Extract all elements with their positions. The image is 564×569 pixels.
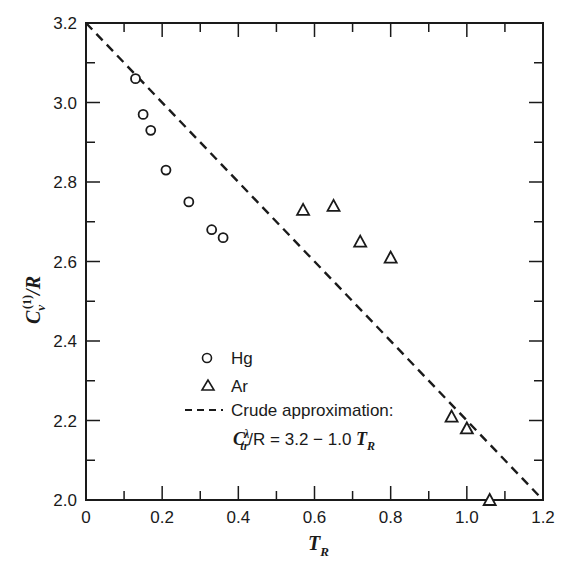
y-tick-label: 2.2 <box>53 412 77 431</box>
x-tick-label: 0.4 <box>227 508 251 527</box>
legend-approx-equation: Cλtr/R = 3.2 − 1.0 TR <box>233 427 375 453</box>
legend-hg-marker-icon <box>203 354 212 363</box>
ar-point <box>328 200 340 211</box>
hg-point <box>207 225 216 234</box>
y-tick-label: 2.0 <box>53 491 77 510</box>
x-tick-label: 1.2 <box>531 508 555 527</box>
y-tick-label: 3.0 <box>53 94 77 113</box>
x-tick-label: 1.0 <box>455 508 479 527</box>
hg-point <box>139 110 148 119</box>
ar-point <box>446 411 458 422</box>
legend-ar-marker-icon <box>202 380 214 390</box>
x-tick-labels: 00.20.40.60.81.01.2 <box>81 508 555 527</box>
legend-approx-label: Crude approximation: <box>231 401 394 420</box>
ar-point <box>385 252 397 263</box>
legend-ar-label: Ar <box>231 377 248 396</box>
legend: Hg Ar Crude approximation: Cλtr/R = 3.2 … <box>185 349 394 453</box>
x-tick-label: 0 <box>81 508 90 527</box>
hg-point <box>161 166 170 175</box>
hg-point <box>219 233 228 242</box>
hg-point <box>184 197 193 206</box>
x-tick-label: 0.8 <box>379 508 403 527</box>
crude-approximation-line <box>86 23 543 500</box>
ar-point <box>354 236 366 247</box>
y-tick-label: 2.6 <box>53 253 77 272</box>
ar-point <box>297 204 309 215</box>
hg-point <box>131 74 140 83</box>
y-tick-label: 3.2 <box>53 14 77 33</box>
x-axis-label: TR <box>308 532 329 559</box>
y-axis-label: Cv(1)/R <box>20 276 48 324</box>
y-tick-labels: 2.02.22.42.62.83.03.2 <box>53 14 77 510</box>
hg-point <box>146 126 155 135</box>
x-tick-label: 0.6 <box>303 508 327 527</box>
chart: 00.20.40.60.81.01.2 2.02.22.42.62.83.03.… <box>0 0 564 569</box>
x-tick-label: 0.2 <box>150 508 174 527</box>
y-tick-label: 2.4 <box>53 332 77 351</box>
y-tick-label: 2.8 <box>53 173 77 192</box>
legend-hg-label: Hg <box>231 349 253 368</box>
